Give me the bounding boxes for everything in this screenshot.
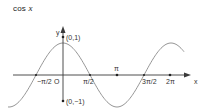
x-axis-label: x [194,78,198,85]
tick-3pi-half-dot [143,74,145,76]
origin-label: O [54,78,60,85]
tick-neg-pi-half-dot [35,74,37,76]
tick-2pi-dot [169,74,172,77]
point-max-dot [62,36,65,39]
y-axis-label: y [56,29,60,37]
tick-label-2pi: 2π [166,78,175,85]
point-min-label: (0,−1) [66,98,84,106]
y-axis-arrow-icon [61,26,66,33]
cosine-plot: x y O (0,1) (0,−1) −π/2 π/2 π 3π/2 2π [0,0,202,110]
tick-label-pi-half: π/2 [83,78,94,85]
tick-pi-half-dot [89,74,91,76]
tick-label-3pi-half: 3π/2 [142,78,157,85]
x-axis-arrow-icon [184,73,191,78]
point-min-dot [62,100,65,103]
tick-pi-dot [116,74,119,77]
point-max-label: (0,1) [66,34,80,42]
tick-label-pi: π [114,65,119,72]
tick-label-neg-pi-half: −π/2 [37,78,52,85]
